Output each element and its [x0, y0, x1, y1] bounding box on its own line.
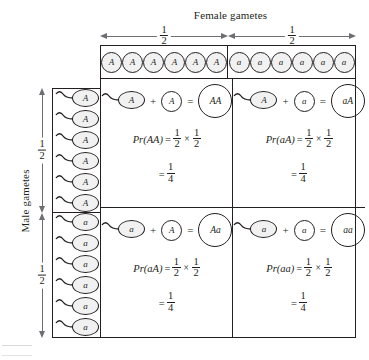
- equals-operator: =: [159, 298, 165, 309]
- egg-cell: a: [313, 52, 334, 73]
- factor-one: 1 2: [172, 257, 180, 280]
- sperm-allele-label: a: [72, 234, 99, 252]
- factor-one: 1 2: [305, 128, 313, 151]
- equals-operator: =: [291, 298, 297, 309]
- plus-operator: +: [149, 224, 157, 236]
- arrow-up-icon: [39, 213, 45, 220]
- plus-operator: +: [149, 95, 157, 107]
- probability-result: = 1 4: [159, 292, 175, 315]
- equals-operator: =: [319, 95, 327, 107]
- sperm-cell: a: [55, 318, 99, 339]
- sperm-allele-label: A: [72, 110, 99, 128]
- zygote-genotype: Aa: [198, 213, 232, 247]
- sperm-cell: a: [55, 234, 99, 255]
- female-gametes-title: Female gametes: [0, 9, 369, 21]
- probability-label: Pr(aA): [133, 263, 162, 274]
- equals-operator: =: [159, 169, 165, 180]
- factor-two: 1 2: [324, 257, 332, 280]
- equals-operator: =: [164, 263, 170, 274]
- female-gamete-group-A: A A A A A A: [101, 46, 228, 78]
- fertilization-equation: A + A = AA: [101, 90, 232, 112]
- plus-operator: +: [281, 224, 289, 236]
- egg-cell: A: [161, 91, 182, 112]
- male-fraction-measure-A: 1 2: [31, 88, 53, 213]
- egg-cell: a: [334, 52, 355, 73]
- sperm-cell: a: [55, 255, 99, 276]
- sperm-cell: a: [101, 220, 145, 241]
- probability-result: = 1 4: [291, 163, 307, 186]
- arrow-left-icon: [100, 33, 107, 39]
- scan-artifact: [2, 345, 32, 356]
- sperm-allele-label: A: [72, 194, 99, 212]
- sperm-allele-label: a: [72, 318, 99, 336]
- sperm-allele-label: a: [250, 220, 277, 238]
- female-fraction-measure-a: 1 2: [228, 25, 356, 47]
- sperm-allele-label: A: [72, 152, 99, 170]
- probability-expression: Pr(aA) = 1 2 × 1 2: [133, 257, 200, 280]
- sperm-cell: A: [101, 91, 145, 112]
- sperm-allele-label: A: [72, 173, 99, 191]
- sperm-allele-label: A: [72, 89, 99, 107]
- equals-operator: =: [296, 263, 302, 274]
- probability-label: Pr(aa): [266, 263, 294, 274]
- egg-cell: A: [101, 52, 122, 73]
- result-fraction: 1 4: [299, 291, 307, 314]
- fertilization-equation: a + A = Aa: [101, 219, 232, 241]
- times-operator: ×: [183, 263, 190, 273]
- punnett-square-grid: A A A A A A a a a a a a A: [100, 45, 356, 338]
- equals-operator: =: [291, 169, 297, 180]
- sperm-allele-label: a: [72, 255, 99, 273]
- zygote-genotype: AA: [198, 84, 232, 118]
- equals-operator: =: [186, 224, 194, 236]
- egg-cell: a: [292, 52, 313, 73]
- sperm-allele-label: A: [72, 131, 99, 149]
- fertilization-equation: A + a = aA: [233, 90, 364, 112]
- probability-label: Pr(AA): [133, 134, 163, 145]
- sperm-cell: A: [55, 131, 99, 152]
- egg-cell: a: [294, 91, 315, 112]
- plus-operator: +: [281, 95, 289, 107]
- sperm-cell: A: [55, 152, 99, 173]
- sperm-cell: a: [55, 276, 99, 297]
- sperm-cell: a: [55, 213, 99, 234]
- arrow-down-icon: [39, 331, 45, 338]
- fraction-one-half: 1 2: [38, 137, 46, 164]
- egg-cell: A: [122, 52, 143, 73]
- times-operator: ×: [314, 263, 321, 273]
- sperm-cell: A: [55, 89, 99, 110]
- punnett-cell-AA: A + A = AA Pr(AA) = 1 2 × 1 2: [101, 79, 233, 208]
- male-gametes-title: Male gametes: [19, 131, 31, 271]
- probability-expression: Pr(aa) = 1 2 × 1 2: [266, 257, 332, 280]
- egg-cell: A: [206, 52, 227, 73]
- sperm-allele-label: a: [72, 276, 99, 294]
- egg-cell: a: [229, 52, 250, 73]
- punnett-cell-aa: a + a = aa Pr(aa) = 1 2 × 1 2: [233, 208, 364, 337]
- sperm-allele-label: a: [72, 213, 99, 231]
- male-gamete-group-a: a a a a a: [53, 213, 100, 337]
- times-operator: ×: [315, 134, 322, 144]
- sperm-cell: A: [55, 173, 99, 194]
- equals-operator: =: [297, 134, 303, 145]
- times-operator: ×: [183, 134, 190, 144]
- egg-cell: a: [250, 52, 271, 73]
- male-gamete-column: A A A A A: [52, 88, 100, 338]
- factor-two: 1 2: [324, 128, 332, 151]
- factor-one: 1 2: [173, 128, 181, 151]
- male-gamete-group-A: A A A A A: [53, 89, 100, 213]
- probability-result: = 1 4: [159, 163, 175, 186]
- punnett-cell-aA-top: A + a = aA Pr(aA) = 1 2 × 1 2: [233, 79, 364, 208]
- result-fraction: 1 4: [167, 291, 175, 314]
- egg-cell: a: [271, 52, 292, 73]
- sperm-cell: A: [233, 91, 277, 112]
- result-fraction: 1 4: [167, 162, 175, 185]
- probability-label: Pr(aA): [266, 134, 295, 145]
- sperm-allele-label: a: [118, 220, 145, 238]
- arrow-down-icon: [39, 206, 45, 213]
- fraction-one-half: 1 2: [38, 262, 46, 289]
- fertilization-equation: a + a = aa: [233, 219, 364, 241]
- probability-result: = 1 4: [291, 292, 307, 315]
- sperm-allele-label: a: [72, 297, 99, 315]
- egg-cell: A: [164, 52, 185, 73]
- sperm-cell: A: [55, 194, 99, 215]
- female-gamete-group-a: a a a a a a: [228, 46, 355, 78]
